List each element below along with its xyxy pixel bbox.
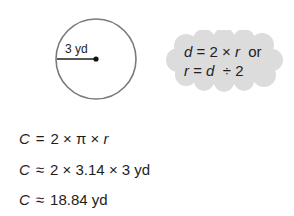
equation-line-2: C≈2 × 3.14 × 3 yd <box>19 162 150 177</box>
radius-label: 3 yd <box>65 43 88 55</box>
formula-text: d = 2 × r or r = d ÷ 2 <box>184 42 262 80</box>
center-dot <box>93 56 98 61</box>
equation-line-3: C≈18.84 yd <box>19 192 150 207</box>
radius-formula: r = d ÷ 2 <box>184 61 262 80</box>
circumference-work: C=2 × π × r C≈2 × 3.14 × 3 yd C≈18.84 yd <box>19 131 150 216</box>
equation-line-1: C=2 × π × r <box>19 131 150 146</box>
circle-diagram: 3 yd <box>0 0 160 110</box>
formula-note: d = 2 × r or r = d ÷ 2 <box>164 30 284 92</box>
diameter-formula: d = 2 × r or <box>184 42 262 61</box>
